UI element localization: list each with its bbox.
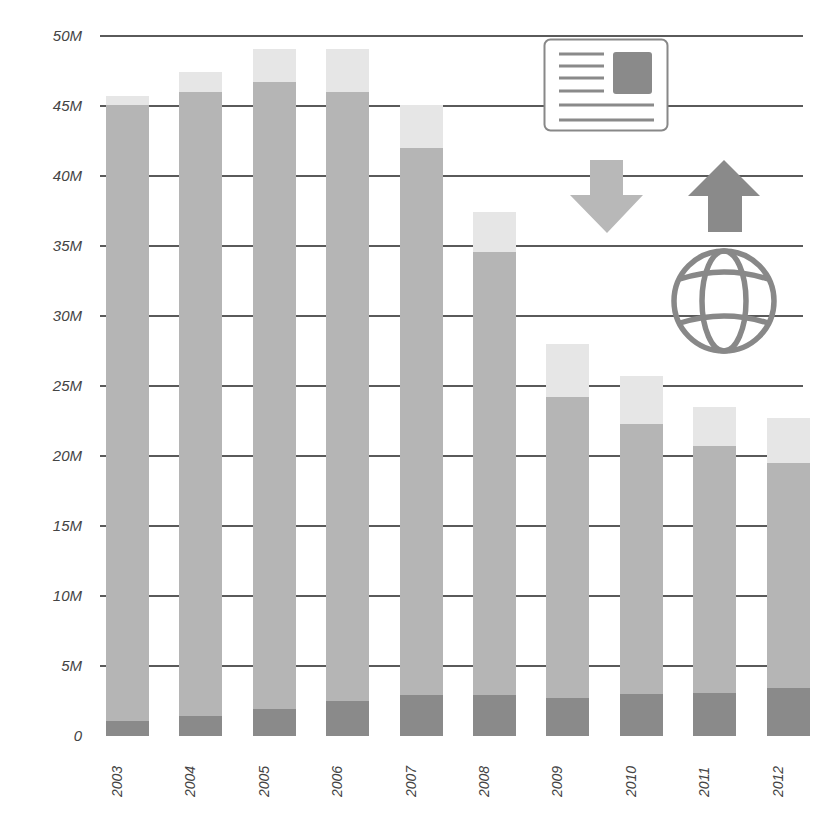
newspaper-icon: [543, 38, 671, 134]
bar-segment: [767, 463, 810, 688]
bar-segment: [326, 701, 369, 736]
y-tick-label: 35M: [53, 238, 82, 253]
bar-segment: [253, 49, 296, 83]
bar-segment: [693, 693, 736, 736]
globe-icon: [670, 247, 778, 355]
bar-segment: [253, 709, 296, 736]
bar-segment: [106, 96, 149, 104]
bar-segment: [473, 252, 516, 696]
stacked-bar-chart: 05M10M15M20M25M30M35M40M45M50M 200320042…: [0, 0, 828, 827]
bar-segment: [326, 49, 369, 92]
y-tick-label: 25M: [53, 378, 82, 393]
y-tick-label: 0: [74, 728, 82, 743]
y-tick-label: 45M: [53, 98, 82, 113]
y-tick-label: 15M: [53, 518, 82, 533]
bar-segment: [546, 698, 589, 736]
bar-segment: [253, 82, 296, 709]
bar-segment: [620, 424, 663, 694]
arrow-up-icon: [687, 160, 763, 234]
x-tick-label: 2007: [404, 766, 418, 797]
bar-segment: [106, 721, 149, 736]
x-tick-label: 2011: [697, 767, 711, 797]
y-tick-label: 10M: [53, 588, 82, 603]
y-tick-label: 20M: [53, 448, 82, 463]
bar-segment: [179, 92, 222, 716]
x-tick-label: 2006: [330, 766, 344, 797]
y-tick-label: 50M: [53, 28, 82, 43]
bar-segment: [473, 212, 516, 251]
bar-segment: [106, 105, 149, 721]
bar-segment: [326, 92, 369, 701]
arrow-down-icon: [569, 160, 645, 234]
bar-segment: [620, 694, 663, 736]
bar-segment: [767, 418, 810, 463]
bar-segment: [693, 407, 736, 446]
x-tick-label: 2010: [624, 766, 638, 797]
bar-segment: [546, 344, 589, 397]
y-tick-label: 30M: [53, 308, 82, 323]
x-tick-label: 2012: [771, 766, 785, 797]
bar-segment: [693, 446, 736, 692]
bar-segment: [767, 688, 810, 736]
bar-segment: [400, 105, 443, 148]
bar-segment: [620, 376, 663, 424]
y-tick-label: 5M: [61, 658, 82, 673]
y-tick-label: 40M: [53, 168, 82, 183]
gridline: [100, 35, 803, 37]
x-tick-label: 2009: [550, 766, 564, 797]
bar-segment: [400, 148, 443, 695]
bar-segment: [400, 695, 443, 736]
bar-segment: [179, 716, 222, 736]
bar-segment: [546, 397, 589, 698]
bar-segment: [179, 72, 222, 92]
x-tick-label: 2008: [477, 766, 491, 797]
bar-segment: [473, 695, 516, 736]
x-tick-label: 2004: [183, 766, 197, 797]
x-tick-label: 2003: [110, 766, 124, 797]
x-tick-label: 2005: [257, 766, 271, 797]
